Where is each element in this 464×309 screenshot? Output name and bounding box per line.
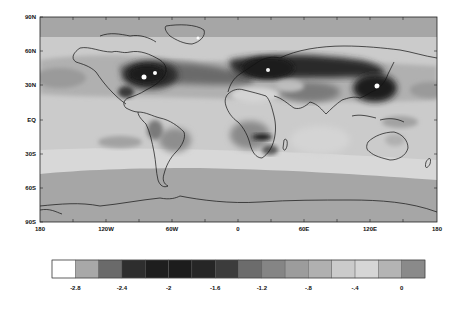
x-tick-label: 60W xyxy=(166,226,179,232)
colorbar-box xyxy=(52,260,75,278)
map-panel: 90N 60N 30N EQ 30S 60S 90S 180 120W 60W … xyxy=(0,0,464,240)
colorbar-box xyxy=(378,260,401,278)
y-tick-label: 30N xyxy=(25,82,36,88)
y-tick-label: EQ xyxy=(27,117,36,123)
colorbar-tick-label: -.4 xyxy=(352,285,360,291)
x-tick-label: 180 xyxy=(35,226,46,232)
colorbar-tick-label: -1.2 xyxy=(257,285,268,291)
colorbar-box xyxy=(355,260,378,278)
colorbar-box xyxy=(215,260,238,278)
colorbar-box xyxy=(332,260,355,278)
colorbar-box xyxy=(75,260,98,278)
colorbar-box xyxy=(122,260,145,278)
x-tick-label: 120W xyxy=(98,226,114,232)
x-tick-label: 0 xyxy=(236,226,240,232)
colorbar-box xyxy=(308,260,331,278)
colorbar-box xyxy=(145,260,168,278)
colorbar-tick-label: -2 xyxy=(166,285,172,291)
colorbar-tick-label: -1.6 xyxy=(210,285,221,291)
x-tick-label: 120E xyxy=(363,226,377,232)
y-tick-label: 90S xyxy=(25,219,36,225)
colorbar: -2.8 -2.4 -2 -1.6 -1.2 -.8 -.4 0 xyxy=(0,250,464,300)
x-tick-label: 60E xyxy=(299,226,310,232)
y-tick-label: 60N xyxy=(25,48,36,54)
colorbar-tick-label: -2.4 xyxy=(117,285,128,291)
y-tick-label: 90N xyxy=(25,14,36,20)
colorbar-tick-label: -2.8 xyxy=(70,285,81,291)
x-tick-label: 180 xyxy=(432,226,443,232)
colorbar-panel: -2.8 -2.4 -2 -1.6 -1.2 -.8 -.4 0 xyxy=(0,250,464,300)
colorbar-box xyxy=(169,260,192,278)
colorbar-tick-label: -.8 xyxy=(305,285,313,291)
colorbar-tick-label: 0 xyxy=(400,285,404,291)
colorbar-box xyxy=(402,260,425,278)
colorbar-boxes xyxy=(52,260,425,278)
colorbar-box xyxy=(99,260,122,278)
y-tick-label: 30S xyxy=(25,151,36,157)
colorbar-box xyxy=(192,260,215,278)
map-field xyxy=(34,17,450,222)
colorbar-box xyxy=(262,260,285,278)
colorbar-box xyxy=(285,260,308,278)
y-tick-label: 60S xyxy=(25,185,36,191)
world-map: 90N 60N 30N EQ 30S 60S 90S 180 120W 60W … xyxy=(0,0,464,240)
colorbar-box xyxy=(239,260,262,278)
